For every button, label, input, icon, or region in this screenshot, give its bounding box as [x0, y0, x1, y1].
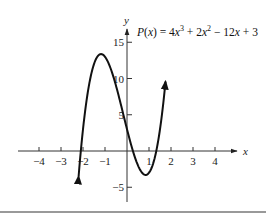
y-tick-label: 15: [113, 36, 125, 48]
y-tick-label: −5: [112, 181, 124, 193]
x-tick-label: −1: [99, 155, 111, 167]
x-tick-label: −4: [33, 155, 45, 167]
x-tick-label: 1: [146, 155, 152, 167]
y-ticks: 15105−5: [112, 36, 132, 193]
x-axis-label: x: [242, 145, 248, 157]
y-axis-label: y: [123, 14, 129, 26]
equation-label: P(x) = 4x3 + 2x2 − 12x + 3: [136, 24, 258, 39]
x-tick-label: 2: [168, 155, 174, 167]
chart-canvas: x y −4−3−2−11234 15105−5 P(x) = 4x3 + 2x…: [0, 0, 266, 215]
x-ticks: −4−3−2−11234: [33, 147, 218, 167]
x-tick-label: −3: [55, 155, 67, 167]
x-tick-label: 3: [190, 155, 196, 167]
x-tick-label: 4: [212, 155, 218, 167]
